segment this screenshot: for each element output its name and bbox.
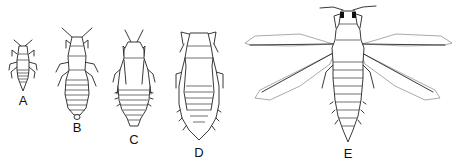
right-wings <box>360 34 452 100</box>
insect-E-adult <box>245 6 452 142</box>
label-A: A <box>19 94 28 107</box>
label-B: B <box>73 121 82 134</box>
label-D: D <box>194 146 203 159</box>
insect-D-pupa <box>176 32 223 140</box>
label-E: E <box>344 147 353 160</box>
insect-B-second-instar <box>56 28 98 120</box>
insect-C-prepupa <box>113 30 155 126</box>
left-wings <box>245 34 335 100</box>
illustration-canvas <box>0 0 461 167</box>
thrips-life-stages-illustration: A B C D E <box>0 0 461 167</box>
insect-A-first-instar <box>9 40 37 91</box>
label-C: C <box>129 133 138 146</box>
